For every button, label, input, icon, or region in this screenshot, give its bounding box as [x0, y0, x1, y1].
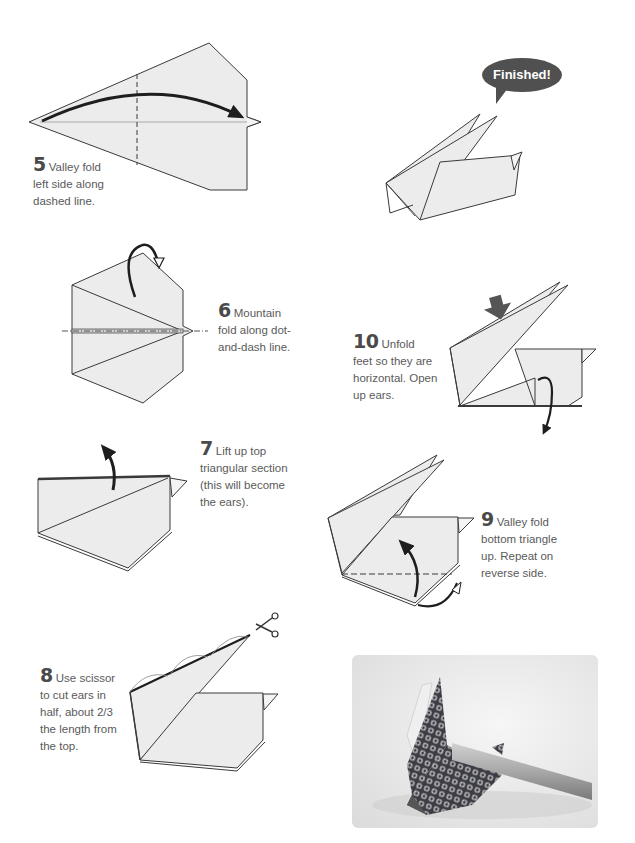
step-number: 6 [218, 299, 231, 321]
step-number: 5 [33, 153, 46, 175]
step-7-diagram [38, 448, 187, 571]
step-6-text: 6Mountain fold along dot- and-dash line. [218, 302, 328, 356]
photo-image [352, 655, 598, 828]
step-10-diagram [450, 282, 596, 432]
step-10-text: 10Unfold feet so they are horizontal. Op… [353, 333, 463, 404]
finished-speech-bubble: Finished! [482, 58, 562, 98]
step-7-text: 7Lift up top triangular section (this wi… [200, 440, 330, 511]
finished-rabbit-photo [352, 655, 598, 828]
finished-label: Finished! [482, 58, 562, 92]
step-5-text: 5Valley fold left side along dashed line… [33, 156, 143, 210]
step-number: 7 [200, 437, 213, 459]
step-number: 9 [481, 508, 494, 530]
finished-rabbit-diagram [386, 114, 522, 220]
step-9-diagram [328, 455, 474, 606]
step-6-diagram [62, 245, 208, 403]
step-8-text: 8Use scissor to cut ears in half, about … [40, 667, 150, 755]
step-number: 10 [353, 330, 378, 352]
step-9-text: 9Valley fold bottom triangle up. Repeat … [481, 511, 601, 582]
scissors-icon [256, 613, 278, 637]
step-8-diagram [130, 613, 278, 771]
step-number: 8 [40, 664, 53, 686]
